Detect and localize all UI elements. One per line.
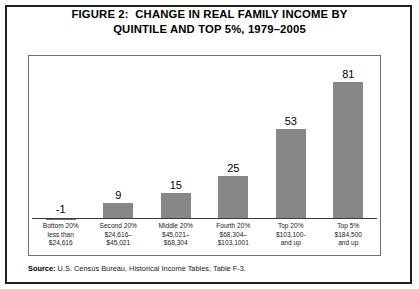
x-label-range-line-1: $24,616– xyxy=(90,231,148,240)
plot-area: -1 9 15 25 53 xyxy=(29,56,380,255)
x-label-range-line-1: $68,304– xyxy=(205,231,263,240)
x-label-top-5: Top 5% $184,500 and up xyxy=(320,222,378,254)
x-label-category: Bottom 20% xyxy=(32,222,90,231)
figure-title-line-1: FIGURE 2: CHANGE IN REAL FAMILY INCOME B… xyxy=(0,7,419,22)
source-note-label: Source: xyxy=(28,264,56,273)
x-label-range-line-2: and up xyxy=(262,239,320,248)
bar-fourth-20 xyxy=(218,176,248,218)
bar-value-label: -1 xyxy=(32,203,90,215)
x-axis-baseline xyxy=(32,218,377,219)
x-label-range-line-2: $103,1001 xyxy=(205,239,263,248)
plot-frame: -1 9 15 25 53 xyxy=(28,55,381,256)
figure-root: FIGURE 2: CHANGE IN REAL FAMILY INCOME B… xyxy=(0,0,419,289)
x-label-category: Top 5% xyxy=(320,222,378,231)
bar-middle-20 xyxy=(161,193,191,218)
bar-value-label: 25 xyxy=(205,162,263,174)
x-label-range-line-1: less than xyxy=(32,231,90,240)
source-note: Source: U.S. Census Bureau, Historical I… xyxy=(28,264,246,273)
x-label-category: Fourth 20% xyxy=(205,222,263,231)
x-axis-labels: Bottom 20% less than $24,616 Second 20% … xyxy=(32,222,377,254)
bar-slot-top-5: 81 xyxy=(320,56,378,218)
x-label-range-line-1: $45,021– xyxy=(147,231,205,240)
x-label-range-line-1: $103,100- xyxy=(262,231,320,240)
figure-title-line-2: QUINTILE AND TOP 5%, 1979–2005 xyxy=(0,22,419,37)
x-label-second-20: Second 20% $24,616– $45,021 xyxy=(90,222,148,254)
bar-slot-middle-20: 15 xyxy=(147,56,205,218)
x-label-range-line-2: and up xyxy=(320,239,378,248)
bar-value-label: 81 xyxy=(320,68,378,80)
x-label-range-line-2: $45,021 xyxy=(90,239,148,248)
x-label-range-line-2: $24,616 xyxy=(32,239,90,248)
bar-slot-fourth-20: 25 xyxy=(205,56,263,218)
bar-top-20 xyxy=(276,129,306,218)
x-label-top-20: Top 20% $103,100- and up xyxy=(262,222,320,254)
x-label-bottom-20: Bottom 20% less than $24,616 xyxy=(32,222,90,254)
x-label-middle-20: Middle 20% $45,021– $68,304 xyxy=(147,222,205,254)
x-label-range-line-1: $184,500 xyxy=(320,231,378,240)
bars-group: -1 9 15 25 53 xyxy=(32,56,377,218)
x-label-range-line-2: $68,304 xyxy=(147,239,205,248)
bar-value-label: 9 xyxy=(90,189,148,201)
bar-second-20 xyxy=(103,203,133,218)
bar-value-label: 15 xyxy=(147,179,205,191)
bar-top-5 xyxy=(333,82,363,218)
bar-value-label: 53 xyxy=(262,115,320,127)
x-label-category: Middle 20% xyxy=(147,222,205,231)
x-label-fourth-20: Fourth 20% $68,304– $103,1001 xyxy=(205,222,263,254)
source-note-text: U.S. Census Bureau, Historical Income Ta… xyxy=(58,264,246,273)
figure-title: FIGURE 2: CHANGE IN REAL FAMILY INCOME B… xyxy=(0,7,419,37)
bar-slot-bottom-20: -1 xyxy=(32,56,90,218)
x-label-category: Second 20% xyxy=(90,222,148,231)
x-label-category: Top 20% xyxy=(262,222,320,231)
bar-slot-second-20: 9 xyxy=(90,56,148,218)
bar-slot-top-20: 53 xyxy=(262,56,320,218)
